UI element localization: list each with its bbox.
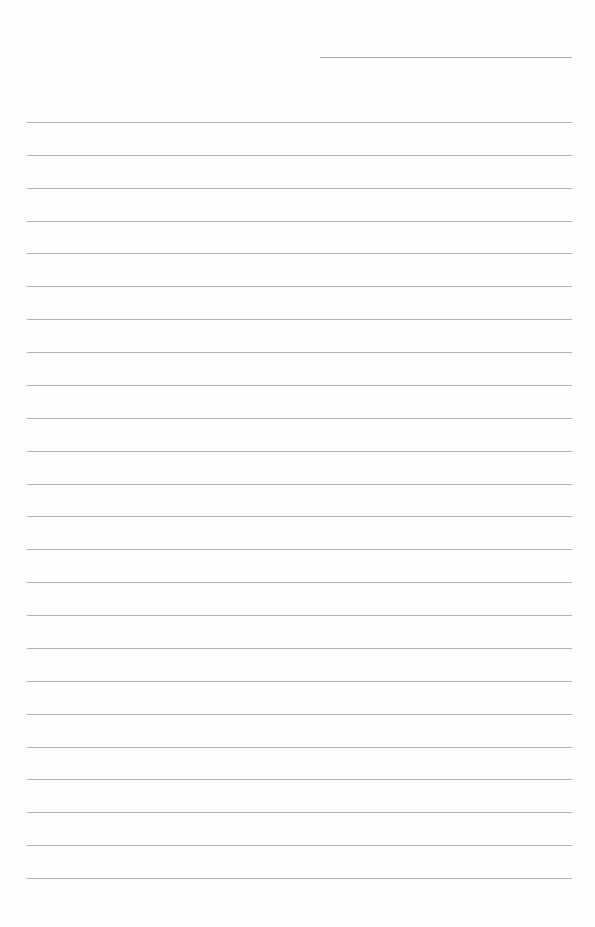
ruled-line <box>27 319 572 320</box>
ruled-line <box>27 418 572 419</box>
header-write-line <box>320 57 572 58</box>
ruled-line <box>27 582 572 583</box>
ruled-line <box>27 352 572 353</box>
ruled-line <box>27 549 572 550</box>
ruled-line <box>27 779 572 780</box>
ruled-line <box>27 188 572 189</box>
ruled-line <box>27 648 572 649</box>
ruled-line <box>27 451 572 452</box>
ruled-line <box>27 484 572 485</box>
ruled-line <box>27 155 572 156</box>
ruled-line <box>27 714 572 715</box>
ruled-line <box>27 747 572 748</box>
ruled-line <box>27 286 572 287</box>
ruled-line <box>27 516 572 517</box>
ruled-line <box>27 253 572 254</box>
ruled-line <box>27 845 572 846</box>
lined-page <box>0 0 595 927</box>
ruled-line <box>27 221 572 222</box>
ruled-line <box>27 385 572 386</box>
ruled-line <box>27 122 572 123</box>
ruled-line <box>27 615 572 616</box>
ruled-line <box>27 812 572 813</box>
ruled-line <box>27 681 572 682</box>
ruled-line <box>27 878 572 879</box>
